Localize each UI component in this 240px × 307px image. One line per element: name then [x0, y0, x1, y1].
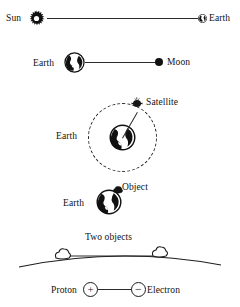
- earth-label: Earth: [209, 14, 230, 24]
- sun-earth-connector: [47, 18, 199, 19]
- two-objects-caption: Two objects: [85, 233, 132, 243]
- sun-label: Sun: [6, 14, 21, 24]
- sun-icon: [28, 10, 45, 27]
- satellite-icon: [130, 97, 144, 110]
- plus-charge-icon: +: [83, 282, 98, 297]
- earth-globe-icon: [198, 14, 207, 23]
- satellite-label: Satellite: [146, 98, 178, 108]
- earth-label: Earth: [63, 199, 84, 209]
- panel-earth-satellite: Earth Satellite: [0, 85, 240, 177]
- proton-label: Proton: [51, 286, 77, 296]
- ground-arc-icon: [18, 245, 222, 273]
- minus-sign: −: [132, 283, 145, 296]
- earth-label: Earth: [33, 59, 54, 69]
- minus-charge-icon: −: [131, 282, 146, 297]
- earth-moon-connector: [85, 62, 158, 63]
- panel-proton-electron: Proton + − Electron: [0, 273, 240, 307]
- plus-sign: +: [84, 283, 97, 296]
- moon-dot-icon: [155, 58, 163, 66]
- physics-attraction-figure: Sun Earth Earth: [0, 0, 240, 307]
- panel-sun-earth: Sun Earth: [0, 0, 240, 40]
- earth-globe-icon: [64, 52, 85, 73]
- proton-electron-connector: [98, 289, 132, 290]
- electron-label: Electron: [147, 286, 180, 296]
- panel-two-objects: Two objects: [0, 225, 240, 273]
- moon-label: Moon: [167, 58, 190, 68]
- object-label: Object: [122, 183, 148, 193]
- panel-earth-object: Earth Object: [0, 177, 240, 225]
- earth-label: Earth: [56, 132, 77, 142]
- panel-earth-moon: Earth Moon: [0, 40, 240, 85]
